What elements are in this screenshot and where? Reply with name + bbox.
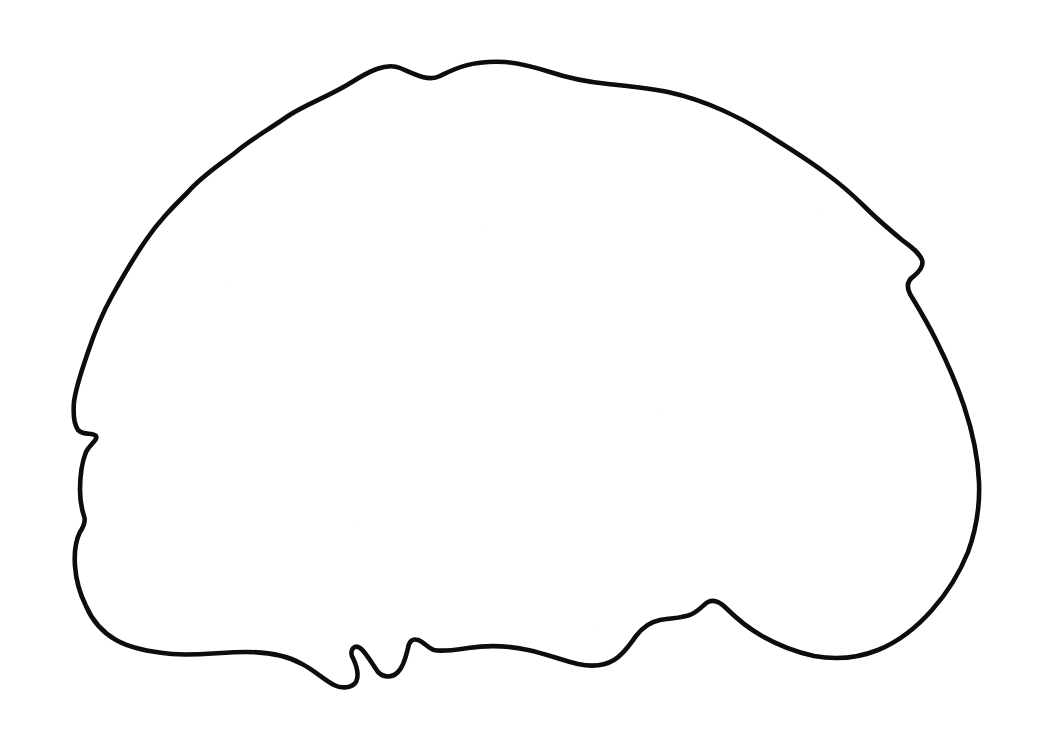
drawing-canvas (0, 0, 1047, 751)
brain-outline-figure (0, 0, 1047, 751)
canvas-background (0, 0, 1047, 751)
